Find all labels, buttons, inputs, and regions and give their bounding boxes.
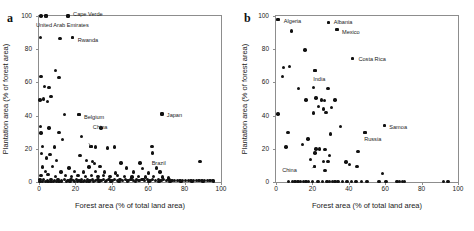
data-point xyxy=(201,180,204,183)
data-point xyxy=(54,69,57,72)
data-point xyxy=(276,18,279,21)
data-point xyxy=(51,165,54,168)
data-point xyxy=(158,170,161,173)
data-point xyxy=(46,173,49,176)
data-point xyxy=(59,170,62,173)
data-point xyxy=(322,160,325,163)
point-annotation: United Arab Emirates xyxy=(36,23,89,29)
point-annotation: Belgium xyxy=(84,115,104,121)
y-tick-label: 80 xyxy=(25,46,32,53)
data-point xyxy=(39,75,42,78)
data-point xyxy=(313,151,316,154)
data-point xyxy=(39,125,42,128)
annotation-leader-line xyxy=(276,16,458,202)
data-point xyxy=(281,75,284,78)
data-point xyxy=(63,113,66,116)
y-tick xyxy=(273,182,276,183)
point-annotation: Mexico xyxy=(342,30,360,36)
data-point xyxy=(141,167,144,170)
data-point xyxy=(58,37,61,40)
data-point xyxy=(39,131,42,134)
data-point xyxy=(282,66,285,69)
data-point xyxy=(304,98,307,101)
data-point xyxy=(80,135,83,138)
data-point xyxy=(126,180,129,183)
data-point xyxy=(318,147,321,150)
data-point xyxy=(377,180,380,183)
data-point xyxy=(384,180,387,183)
data-point xyxy=(73,170,76,173)
data-point xyxy=(324,111,327,114)
data-point xyxy=(355,165,358,168)
data-point xyxy=(132,170,135,173)
data-point xyxy=(321,180,324,183)
panel-a-letter: a xyxy=(7,12,13,24)
data-point xyxy=(64,174,67,177)
data-point xyxy=(313,165,316,168)
data-point xyxy=(317,105,320,108)
data-point xyxy=(93,162,96,165)
data-point xyxy=(68,180,71,183)
data-point xyxy=(109,180,112,183)
data-point xyxy=(329,132,332,135)
x-tick-label: 0 xyxy=(37,186,41,193)
data-point xyxy=(383,124,386,127)
data-point xyxy=(360,180,363,183)
x-tick-label: 0 xyxy=(274,186,278,193)
data-point xyxy=(286,131,289,134)
data-point xyxy=(307,180,310,183)
data-point xyxy=(42,97,45,100)
data-point xyxy=(356,150,359,153)
data-point xyxy=(67,166,70,169)
y-tick xyxy=(273,82,276,83)
y-tick xyxy=(273,149,276,150)
data-point xyxy=(322,107,325,110)
point-annotation: China xyxy=(93,125,108,131)
data-point xyxy=(113,145,116,148)
data-point xyxy=(78,154,81,157)
x-tick-label: 60 xyxy=(145,186,152,193)
data-point xyxy=(350,180,353,183)
data-point xyxy=(147,171,150,174)
data-point xyxy=(306,137,309,140)
x-tick-label: 20 xyxy=(72,186,79,193)
data-point xyxy=(134,180,137,183)
data-point xyxy=(160,112,163,115)
point-annotation: Russia xyxy=(364,137,381,143)
data-point xyxy=(327,21,330,24)
data-point xyxy=(57,131,60,134)
data-point xyxy=(119,161,122,164)
y-tick-label: 0 xyxy=(28,179,32,186)
data-point xyxy=(147,180,150,183)
data-point xyxy=(345,180,348,183)
data-point xyxy=(276,112,279,115)
data-point xyxy=(46,100,49,103)
data-point xyxy=(39,174,42,177)
y-tick-label: 20 xyxy=(25,146,32,153)
data-point xyxy=(60,180,63,183)
point-annotation: Samoa xyxy=(389,125,407,131)
panel-a-plot-frame: 020406080100020406080100Cape VerdeUnited… xyxy=(38,15,222,183)
point-annotation: Brazil xyxy=(152,161,166,167)
panel-b-plot-frame: 020406080100020406080100AlgeriaAlbaniaMe… xyxy=(275,15,459,183)
data-point xyxy=(94,145,97,148)
data-point xyxy=(309,158,312,161)
data-point xyxy=(446,180,449,183)
point-annotation: India xyxy=(313,77,325,83)
data-point xyxy=(40,152,43,155)
y-tick-label: 60 xyxy=(25,79,32,86)
data-point xyxy=(198,160,201,163)
y-tick-label: 60 xyxy=(262,79,269,86)
data-point xyxy=(94,170,97,173)
y-tick xyxy=(273,49,276,50)
x-tick-label: 20 xyxy=(309,186,316,193)
data-point xyxy=(45,156,48,159)
y-tick-label: 100 xyxy=(258,13,269,20)
y-tick-label: 40 xyxy=(25,112,32,119)
data-point xyxy=(48,153,51,156)
data-point xyxy=(442,180,445,183)
data-point xyxy=(47,86,50,89)
panel-b: b Plantation area (% of forest area) For… xyxy=(237,0,474,231)
data-point xyxy=(381,172,384,175)
data-point xyxy=(89,145,92,148)
